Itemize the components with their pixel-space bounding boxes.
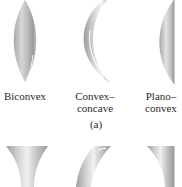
label-convex-concave-line2: concave [72,102,118,114]
label-biconvex-line1: Biconvex [4,90,46,102]
plano-concave-lens [147,146,174,187]
concave-convex-lens [76,146,111,187]
label-plano-convex-line1: Plano– [140,90,182,102]
lens-types-figure: Biconvex Convex– concave Plano– convex (… [0,0,182,187]
label-convex-concave-line1: Convex– [72,90,118,102]
convex-concave-lens [84,0,110,83]
label-biconvex: Biconvex [2,90,48,102]
biconcave-lens [6,146,48,187]
biconvex-lens [14,0,37,82]
panel-label: (a) [82,118,110,130]
plano-convex-lens [159,0,174,84]
label-convex-concave: Convex– concave [72,90,118,114]
label-plano-convex-line2: convex [140,102,182,114]
label-plano-convex: Plano– convex [140,90,182,114]
